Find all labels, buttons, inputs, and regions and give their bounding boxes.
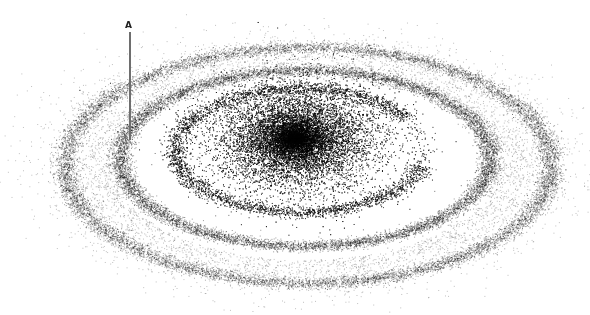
annotation-marker-line [129, 32, 131, 140]
annotation-label-a: A [125, 20, 132, 30]
galaxy-scatter-plot [0, 0, 590, 315]
